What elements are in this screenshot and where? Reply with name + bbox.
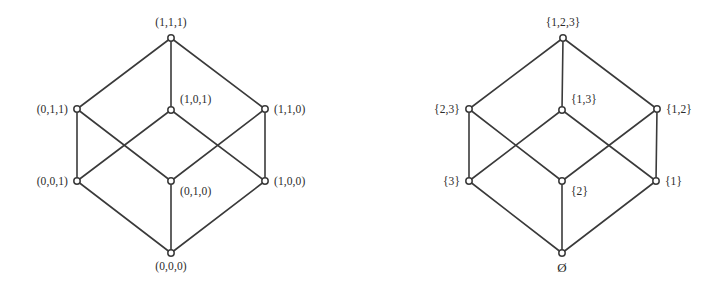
diagram-node — [168, 178, 174, 184]
diagram-node — [653, 178, 659, 184]
diagram-node-label: {1,3} — [571, 93, 597, 106]
diagram-node — [559, 107, 565, 113]
diagram-node-label: {1,2} — [666, 103, 692, 116]
diagram-edge — [469, 38, 563, 109]
edge-group — [469, 38, 657, 253]
diagram-node-label: (0,0,1) — [37, 175, 68, 188]
diagram-edge — [562, 38, 563, 110]
diagram-node-label: (1,1,1) — [155, 16, 186, 29]
diagram-node-label: (0,1,1) — [37, 103, 68, 116]
diagram-node — [74, 178, 80, 184]
diagram-node — [168, 250, 174, 256]
diagram-node — [559, 250, 565, 256]
diagram-node-label: {1,2,3} — [546, 16, 581, 29]
diagram-edge — [656, 109, 657, 181]
diagram-node — [560, 35, 566, 41]
diagram-edge — [77, 181, 171, 253]
diagram-node — [559, 178, 565, 184]
diagram-node — [168, 35, 174, 41]
diagram-node-label: {1} — [665, 175, 682, 187]
diagram-node-label: {3} — [443, 175, 460, 187]
diagram-edge — [77, 38, 171, 109]
diagram-edge — [469, 181, 562, 253]
diagram-node — [168, 107, 174, 113]
edge-group — [77, 38, 265, 253]
diagram-node — [466, 106, 472, 112]
hasse-diagram-figure: (1,1,1)(0,1,1)(1,0,1)(1,1,0)(0,0,1)(0,1,… — [0, 0, 712, 295]
diagram-node-label: (1,0,1) — [180, 93, 211, 106]
diagram-panel-power-set-cube: {1,2,3}{2,3}{1,3}{1,2}{3}{2}{1}Ø — [434, 16, 692, 275]
diagram-node-label: Ø — [557, 260, 567, 275]
diagram-node-label: {2,3} — [434, 103, 460, 116]
diagram-node-label: (1,1,0) — [274, 103, 305, 116]
diagram-node — [74, 106, 80, 112]
diagram-node-label: (1,0,0) — [274, 175, 305, 188]
diagram-node — [262, 178, 268, 184]
diagram-node-label: {2} — [571, 185, 588, 197]
diagram-node — [262, 106, 268, 112]
diagram-node — [466, 178, 472, 184]
diagram-node-label: (0,1,0) — [180, 185, 211, 198]
diagram-node-label: (0,0,0) — [155, 260, 186, 273]
diagram-panel-bit-strings-cube: (1,1,1)(0,1,1)(1,0,1)(1,1,0)(0,0,1)(0,1,… — [37, 16, 306, 273]
diagram-node — [654, 106, 660, 112]
hasse-diagram-canvas: (1,1,1)(0,1,1)(1,0,1)(1,1,0)(0,0,1)(0,1,… — [0, 0, 712, 295]
